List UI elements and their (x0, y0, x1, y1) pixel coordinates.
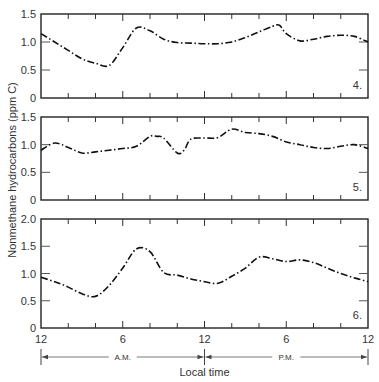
y-tick-label: 0 (30, 92, 36, 104)
y-tick-label: 1.5 (21, 240, 36, 252)
y-tick-label: 1.5 (21, 111, 36, 123)
arrow-left-icon (206, 355, 212, 359)
arrow-right-icon (361, 355, 367, 359)
plot-frame (41, 117, 368, 200)
am-label: A.M. (115, 353, 131, 362)
y-tick-label: 2.0 (21, 213, 36, 225)
panel-6: 00.51.01.52.06. (21, 213, 368, 334)
plot-frame (41, 219, 368, 328)
x-tick-label: 6 (283, 333, 289, 345)
x-tick-label: 12 (362, 333, 374, 345)
x-tick-label: 6 (120, 333, 126, 345)
y-tick-label: 1.0 (21, 36, 36, 48)
y-axis-label: Nonmethane hydrocarbons (ppm C) (6, 82, 18, 257)
y-tick-label: 1.5 (21, 8, 36, 20)
arrow-right-icon (198, 355, 204, 359)
data-series-line (41, 25, 368, 67)
y-tick-label: 1.0 (21, 139, 36, 151)
x-tick-label: 12 (35, 333, 47, 345)
y-tick-label: 0.5 (21, 295, 36, 307)
data-series-line (41, 248, 368, 297)
x-tick-label: 12 (198, 333, 210, 345)
panel-5: 00.51.01.55. (21, 111, 368, 206)
panel-label: 4. (353, 79, 362, 91)
panel-label: 6. (353, 309, 362, 321)
arrow-left-icon (42, 355, 48, 359)
y-tick-label: 0.5 (21, 64, 36, 76)
y-tick-label: 0.5 (21, 166, 36, 178)
x-axis-label: Local time (179, 366, 229, 378)
data-series-line (41, 129, 368, 154)
plot-frame (41, 14, 368, 98)
pm-label: P.M. (279, 353, 294, 362)
chart-figure: 00.51.01.54.00.51.01.55.00.51.01.52.06.1… (0, 0, 379, 382)
y-tick-label: 1.0 (21, 268, 36, 280)
panel-label: 5. (353, 181, 362, 193)
panel-4: 00.51.01.54. (21, 8, 368, 104)
y-tick-label: 0 (30, 194, 36, 206)
